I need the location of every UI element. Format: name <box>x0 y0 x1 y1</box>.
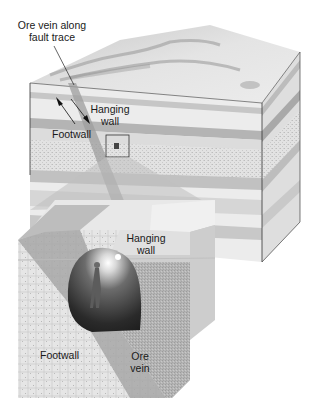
inset-block <box>18 200 215 398</box>
label-footwall-main: Footwall <box>52 128 91 140</box>
label-line: vein <box>128 362 152 374</box>
label-ore-vein-fault-trace: Ore vein along fault trace <box>14 19 90 43</box>
label-line: fault trace <box>14 31 90 43</box>
block-diagram <box>0 0 315 400</box>
label-line: Hanging <box>89 103 131 115</box>
label-line: Ore <box>128 350 152 362</box>
label-ore-vein-inset: Ore vein <box>128 350 152 374</box>
lamp-light <box>115 254 121 260</box>
label-line: Hanging <box>124 232 168 244</box>
label-line: wall <box>89 115 131 127</box>
label-hanging-wall-main: Hanging wall <box>89 103 131 127</box>
label-footwall-inset: Footwall <box>40 349 79 361</box>
mine-tunnel <box>68 248 141 332</box>
label-hanging-wall-inset: Hanging wall <box>124 232 168 256</box>
label-line: wall <box>124 244 168 256</box>
diagram-canvas: Ore vein along fault trace Hanging wall … <box>0 0 315 400</box>
label-line: Ore vein along <box>14 19 90 31</box>
